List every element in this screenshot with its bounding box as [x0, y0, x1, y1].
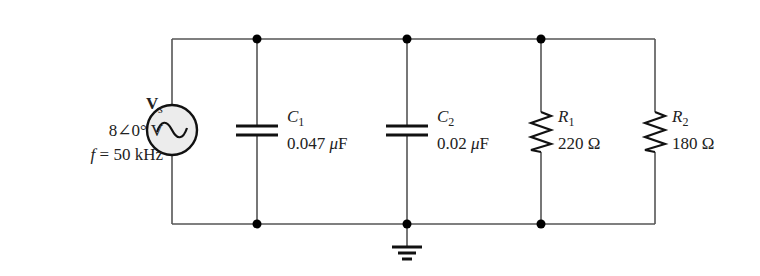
c2-name-label: C2	[437, 107, 454, 129]
c2-value-label: 0.02 μF	[437, 134, 489, 153]
node-dot	[253, 35, 262, 44]
c1-value-label: 0.047 μF	[287, 134, 348, 153]
circuit-diagram: Vs 8∠0° V f = 50 kHz C1 0.047 μF C2 0.02…	[0, 0, 760, 276]
r2-name-label: R2	[671, 107, 688, 129]
node-dot	[537, 220, 546, 229]
capacitor-c1-icon	[236, 126, 278, 135]
source-frequency-label: f = 50 kHz	[91, 145, 164, 164]
node-dot	[403, 35, 412, 44]
junction-nodes	[253, 35, 546, 229]
r2-value-label: 180 Ω	[672, 134, 714, 153]
capacitor-c2-icon	[386, 126, 428, 135]
c1-name-label: C1	[287, 107, 304, 129]
source-value-label: 8∠0° V	[109, 121, 164, 140]
resistor-r2-icon	[645, 112, 665, 152]
r1-value-label: 220 Ω	[558, 134, 600, 153]
resistor-r1-icon	[531, 112, 551, 152]
source-name-label: Vs	[146, 94, 163, 116]
ground-icon	[392, 247, 422, 259]
node-dot	[403, 220, 412, 229]
node-dot	[253, 220, 262, 229]
r1-name-label: R1	[557, 107, 574, 129]
node-dot	[537, 35, 546, 44]
